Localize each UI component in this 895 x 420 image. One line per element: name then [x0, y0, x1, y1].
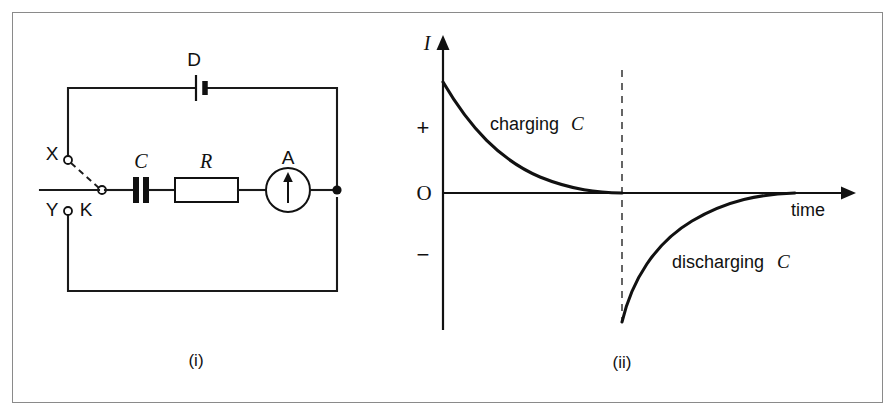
terminal-label-y: Y	[46, 199, 59, 220]
capacitor-label: C	[134, 150, 148, 172]
wire-top-right	[208, 88, 337, 186]
caption-circuit: (i)	[188, 351, 203, 370]
junction-dot	[332, 185, 341, 194]
y-axis-label: I	[423, 32, 432, 54]
contact-y[interactable]	[64, 207, 72, 215]
wire-bottom	[68, 198, 337, 291]
resistor-r	[175, 178, 238, 202]
capacitor-c	[136, 177, 146, 203]
negative-sign-label: −	[417, 242, 430, 267]
origin-label: O	[416, 181, 431, 205]
caption-graph: (ii)	[613, 353, 632, 372]
ammeter-label: A	[282, 147, 295, 168]
terminal-label-x: X	[46, 143, 59, 164]
charging-annotation-text: charging	[490, 114, 559, 134]
positive-sign-label: +	[417, 115, 430, 140]
figure-page: D X Y K C R	[0, 0, 895, 420]
x-axis-label: time	[791, 200, 825, 220]
cell-d	[196, 75, 205, 101]
current-time-graph: I time + O − charging C discharging C	[416, 32, 856, 372]
circuit-diagram: D X Y K C R	[40, 49, 342, 370]
charging-annotation: charging C	[490, 113, 584, 134]
ammeter-a	[266, 168, 310, 212]
charging-curve	[443, 82, 622, 193]
y-axis-arrowhead	[437, 35, 450, 50]
physics-figure: D X Y K C R	[0, 0, 895, 420]
switch-blade[interactable]	[71, 163, 99, 188]
discharging-annotation-symbol: C	[777, 251, 790, 272]
x-axis-arrowhead	[841, 187, 856, 200]
switch-label-k: K	[80, 199, 93, 220]
discharging-annotation: discharging C	[672, 251, 790, 272]
resistor-label: R	[199, 150, 212, 172]
cell-label: D	[187, 49, 201, 70]
contact-x[interactable]	[64, 156, 72, 164]
charging-annotation-symbol: C	[571, 113, 584, 134]
discharging-annotation-text: discharging	[672, 252, 764, 272]
wire-top-left	[68, 88, 195, 160]
